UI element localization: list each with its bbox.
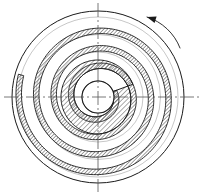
spiral-technical-drawing — [0, 0, 204, 195]
drawing-canvas — [0, 0, 204, 195]
scene-root — [4, 3, 200, 192]
rotation-direction-arrow — [147, 16, 180, 48]
